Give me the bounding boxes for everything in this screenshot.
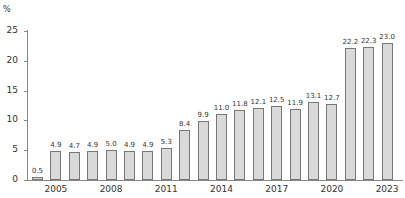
y-tick-label: 15: [0, 85, 18, 95]
x-tick-label: 2017: [259, 184, 295, 194]
bar: [234, 110, 245, 180]
bar: [198, 121, 209, 180]
bar: [161, 148, 172, 180]
bar: [216, 114, 227, 180]
bar-value-label: 8.4: [173, 120, 197, 128]
x-tick-label: 2008: [93, 184, 129, 194]
y-tick-mark: [24, 120, 27, 121]
x-tick-label: 2005: [38, 184, 74, 194]
x-tick-label: 2011: [148, 184, 184, 194]
bar: [345, 48, 356, 180]
bar-value-label: 12.7: [320, 94, 344, 102]
bar: [363, 47, 374, 180]
x-tick-label: 2014: [204, 184, 240, 194]
bar-chart: % 0510152025 0.54.94.74.95.04.94.95.38.4…: [0, 0, 405, 198]
bar-value-label: 5.3: [154, 138, 178, 146]
bar: [179, 130, 190, 180]
bar: [32, 177, 43, 180]
x-tick-label: 2020: [314, 184, 350, 194]
y-tick-mark: [24, 61, 27, 62]
y-tick-label: 25: [0, 25, 18, 35]
x-axis: [27, 180, 403, 181]
bar: [382, 43, 393, 180]
bar: [106, 150, 117, 180]
y-axis: [27, 30, 28, 181]
y-tick-label: 20: [0, 55, 18, 65]
bar: [142, 151, 153, 180]
y-tick-mark: [24, 150, 27, 151]
bar: [50, 151, 61, 180]
bar: [69, 152, 80, 180]
bar-value-label: 23.0: [375, 33, 399, 41]
bar: [326, 104, 337, 180]
bar-value-label: 0.5: [26, 167, 50, 175]
y-tick-label: 0: [0, 174, 18, 184]
y-tick-mark: [24, 31, 27, 32]
bar: [308, 102, 319, 180]
bar-value-label: 11.9: [283, 99, 307, 107]
bar: [124, 151, 135, 180]
x-tick-label: 2023: [369, 184, 405, 194]
y-tick-label: 10: [0, 114, 18, 124]
bar: [87, 151, 98, 180]
bar: [290, 109, 301, 180]
bar: [271, 106, 282, 181]
y-tick-mark: [24, 180, 27, 181]
y-tick-mark: [24, 91, 27, 92]
y-tick-label: 5: [0, 144, 18, 154]
y-axis-label: %: [3, 5, 11, 14]
bar: [253, 108, 264, 180]
